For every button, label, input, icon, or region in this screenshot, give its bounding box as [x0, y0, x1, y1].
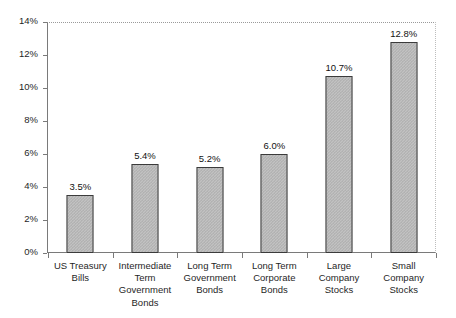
bar-value-label: 3.5% — [70, 181, 92, 192]
x-axis-category-label-line: Government — [177, 272, 242, 284]
x-axis-category-label: SmallCompanyStocks — [371, 260, 436, 297]
x-axis-category-label-line: Bonds — [177, 284, 242, 296]
bar[interactable] — [390, 42, 417, 253]
bar-chart: 0%2%4%6%8%10%12%14% 3.5%5.4%5.2%6.0%10.7… — [0, 0, 456, 318]
x-axis-labels: US TreasuryBillsIntermediateTermGovernme… — [48, 260, 436, 318]
x-axis-category-label: LargeCompanyStocks — [307, 260, 372, 297]
y-axis-tick-mark — [43, 55, 47, 56]
bar-group: 3.5% — [48, 22, 113, 253]
x-axis-category-label-line: Bills — [48, 272, 113, 284]
y-axis-tick-label: 6% — [24, 147, 38, 158]
x-axis-tick-mark — [436, 253, 437, 258]
y-axis-tick-mark — [43, 154, 47, 155]
x-axis-tick-mark — [113, 253, 114, 258]
x-axis-tick-mark — [307, 253, 308, 258]
y-axis-tick-mark — [43, 22, 47, 23]
x-axis-category-label-line: Long Term — [177, 260, 242, 272]
bar[interactable] — [261, 154, 288, 253]
x-axis-category-label: IntermediateTermGovernmentBonds — [113, 260, 178, 309]
x-axis-tick-mark — [242, 253, 243, 258]
x-axis-category-label: Long TermGovernmentBonds — [177, 260, 242, 297]
x-axis-category-label-line: Company — [307, 272, 372, 284]
y-axis-tick-label: 10% — [19, 81, 38, 92]
x-axis-category-label-line: Small — [371, 260, 436, 272]
bar-value-label: 12.8% — [390, 28, 417, 39]
x-axis-category-label-line: Intermediate — [113, 260, 178, 272]
bar-value-label: 5.4% — [134, 150, 156, 161]
x-axis-tick-mark — [371, 253, 372, 258]
y-axis-tick-label: 0% — [24, 246, 38, 257]
bar-group: 5.2% — [177, 22, 242, 253]
x-axis-category-label-line: Company — [371, 272, 436, 284]
x-axis-tick-mark — [177, 253, 178, 258]
bar[interactable] — [196, 167, 223, 253]
y-axis-tick-mark — [43, 253, 47, 254]
x-axis-category-label-line: Corporate — [242, 272, 307, 284]
x-axis-category-label-line: US Treasury — [48, 260, 113, 272]
x-axis-category-label: US TreasuryBills — [48, 260, 113, 284]
bar[interactable] — [325, 76, 352, 253]
x-axis-category-label-line: Stocks — [371, 284, 436, 296]
x-axis-category-label-line: Large — [307, 260, 372, 272]
bar-value-label: 10.7% — [326, 62, 353, 73]
x-axis-category-label-line: Bonds — [242, 284, 307, 296]
x-axis-tick-mark — [48, 253, 49, 258]
y-axis-tick-mark — [43, 121, 47, 122]
y-axis-tick-mark — [43, 220, 47, 221]
bar-value-label: 5.2% — [199, 153, 221, 164]
bar[interactable] — [131, 164, 158, 253]
x-axis-category-label-line: Bonds — [113, 297, 178, 309]
x-axis-category-label-line: Long Term — [242, 260, 307, 272]
y-axis-tick-mark — [43, 88, 47, 89]
bar-group: 12.8% — [371, 22, 436, 253]
x-axis-category-label: Long TermCorporateBonds — [242, 260, 307, 297]
bar-group: 10.7% — [307, 22, 372, 253]
y-axis-tick-label: 8% — [24, 114, 38, 125]
bar-group: 5.4% — [113, 22, 178, 253]
y-axis-tick-label: 4% — [24, 180, 38, 191]
y-axis-tick-label: 2% — [24, 213, 38, 224]
x-axis-category-label-line: Stocks — [307, 284, 372, 296]
y-axis-tick-label: 12% — [19, 48, 38, 59]
bar-group: 6.0% — [242, 22, 307, 253]
x-axis-category-label-line: Term — [113, 272, 178, 284]
bar-value-label: 6.0% — [264, 140, 286, 151]
x-axis-category-label-line: Government — [113, 284, 178, 296]
y-axis-tick-label: 14% — [19, 15, 38, 26]
bars-layer: 3.5%5.4%5.2%6.0%10.7%12.8% — [48, 22, 436, 253]
bar[interactable] — [67, 195, 94, 253]
y-axis-tick-mark — [43, 187, 47, 188]
